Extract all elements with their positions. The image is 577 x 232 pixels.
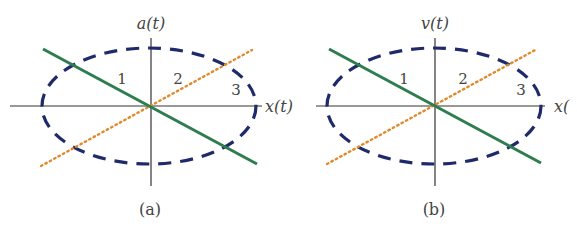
region-label-2: 2 bbox=[458, 70, 468, 88]
region-label-3: 3 bbox=[516, 81, 526, 99]
y-axis-label: v(t) bbox=[421, 14, 449, 33]
panel-b: v(t) x( 1 2 3 (b) bbox=[316, 14, 570, 219]
region-label-1: 1 bbox=[399, 70, 409, 88]
diagram-canvas: a(t) x(t) 1 2 3 (a) v(t) x( 1 2 3 (b) bbox=[0, 0, 577, 232]
y-axis-label: a(t) bbox=[137, 14, 165, 33]
panel-caption: (a) bbox=[139, 200, 161, 219]
region-label-2: 2 bbox=[173, 70, 183, 88]
x-axis-label: x( bbox=[554, 97, 570, 116]
region-label-1: 1 bbox=[117, 70, 127, 88]
dotted-line-positive-slope bbox=[41, 50, 252, 166]
x-axis-label: x(t) bbox=[265, 97, 293, 116]
region-label-3: 3 bbox=[231, 81, 241, 99]
panel-a: a(t) x(t) 1 2 3 (a) bbox=[10, 14, 293, 219]
panel-caption: (b) bbox=[423, 200, 446, 219]
